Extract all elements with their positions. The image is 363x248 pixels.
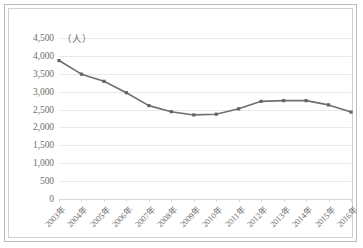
x-tick xyxy=(194,199,195,202)
x-tick-label: 2016年 xyxy=(333,203,359,229)
x-tick-label: 2014年 xyxy=(288,203,314,229)
y-tick-label: 3,500 xyxy=(33,69,54,79)
x-tick xyxy=(306,199,307,202)
x-tick-label: 2012年 xyxy=(243,203,269,229)
data-point-marker xyxy=(80,73,83,76)
x-tick xyxy=(239,199,240,202)
x-tick-label: 2010年 xyxy=(199,203,225,229)
data-point-marker xyxy=(349,110,352,113)
x-tick-label: 2013年 xyxy=(266,203,292,229)
data-point-marker xyxy=(282,99,285,102)
data-point-marker xyxy=(260,100,263,103)
gridline xyxy=(59,199,351,200)
data-point-marker xyxy=(327,103,330,106)
chart-frame: 05001,0001,5002,0002,5003,0003,5004,0004… xyxy=(4,4,357,242)
y-tick-label: 4,000 xyxy=(33,51,54,61)
x-tick xyxy=(171,199,172,202)
x-tick-label: 2011年 xyxy=(221,203,247,229)
y-tick-label: 3,000 xyxy=(33,87,54,97)
data-point-marker xyxy=(125,91,128,94)
x-tick-label: 2006年 xyxy=(109,203,135,229)
data-point-marker xyxy=(215,113,218,116)
data-point-marker xyxy=(147,104,150,107)
x-tick-label: 2007年 xyxy=(131,203,157,229)
data-point-marker xyxy=(57,59,60,62)
data-point-marker xyxy=(304,99,307,102)
y-tick-label: 0 xyxy=(49,194,54,204)
y-tick-label: 500 xyxy=(40,176,54,186)
data-point-marker xyxy=(102,80,105,83)
y-tick-label: 4,500 xyxy=(33,33,54,43)
y-tick-label: 2,500 xyxy=(33,105,54,115)
x-tick xyxy=(284,199,285,202)
x-tick-label: 2003年 xyxy=(41,203,67,229)
plot-area: 05001,0001,5002,0002,5003,0003,5004,0004… xyxy=(59,38,351,199)
x-tick xyxy=(126,199,127,202)
y-tick-label: 2,000 xyxy=(33,122,54,132)
y-tick-label: 1,500 xyxy=(33,140,54,150)
series-line xyxy=(59,61,351,115)
x-tick xyxy=(329,199,330,202)
data-point-marker xyxy=(170,110,173,113)
x-tick xyxy=(216,199,217,202)
x-tick-label: 2008年 xyxy=(154,203,180,229)
x-tick xyxy=(104,199,105,202)
line-series xyxy=(59,38,351,199)
x-tick xyxy=(81,199,82,202)
x-tick-label: 2009年 xyxy=(176,203,202,229)
chart-frame-inner-border: 05001,0001,5002,0002,5003,0003,5004,0004… xyxy=(8,8,353,238)
x-tick-label: 2005年 xyxy=(86,203,112,229)
y-tick-label: 1,000 xyxy=(33,158,54,168)
x-tick xyxy=(351,199,352,202)
x-tick-label: 2004年 xyxy=(64,203,90,229)
data-point-marker xyxy=(237,107,240,110)
data-point-marker xyxy=(192,113,195,116)
x-tick-label: 2015年 xyxy=(311,203,337,229)
x-tick xyxy=(261,199,262,202)
x-tick xyxy=(149,199,150,202)
x-tick xyxy=(59,199,60,202)
